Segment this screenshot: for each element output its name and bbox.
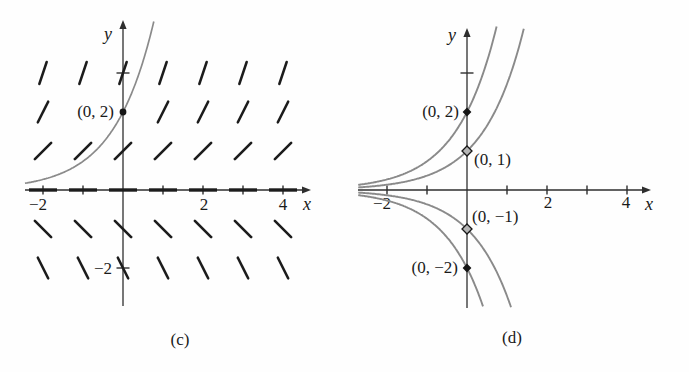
x-tick-label: 4: [279, 195, 288, 214]
slope-mark: [198, 102, 208, 123]
x-axis-arrow: [302, 186, 311, 193]
slope-mark: [199, 62, 206, 84]
slope-mark: [195, 143, 211, 159]
slope-mark: [75, 221, 91, 237]
slope-mark: [275, 221, 291, 237]
slope-mark: [198, 258, 208, 279]
slope-mark: [38, 102, 48, 123]
slope-mark: [159, 62, 166, 84]
slope-mark: [79, 62, 86, 84]
x-axis-letter: x: [644, 194, 653, 214]
point-label: (0, 2): [422, 102, 459, 121]
slope-mark: [158, 258, 168, 279]
slope-mark: [35, 143, 51, 159]
point-marker-filled-diamond: [463, 264, 472, 273]
figure-root: −224−2xy(0, 2)−224xy(0, 2)(0, 1)(0, −1)(…: [0, 0, 689, 372]
x-axis-letter: x: [302, 194, 311, 214]
panel-c-caption: (c): [145, 330, 215, 350]
slope-mark: [275, 143, 291, 159]
slope-mark: [238, 258, 248, 279]
x-tick-label: 2: [544, 193, 553, 212]
point-label: (0, 2): [77, 102, 114, 121]
point-label: (0, 1): [474, 150, 511, 169]
slope-mark: [158, 102, 168, 123]
y-axis-arrow: [463, 28, 470, 37]
x-tick-label: −2: [29, 195, 47, 214]
y-axis-letter: y: [446, 25, 456, 45]
y-axis-arrow: [119, 20, 126, 29]
y-axis-letter: y: [102, 24, 112, 44]
slope-mark: [279, 62, 286, 84]
slope-mark: [39, 62, 46, 84]
panel-c: −224−2xy(0, 2): [25, 20, 311, 306]
point-marker-filled-dot: [120, 109, 127, 116]
point-label: (0, −2): [412, 258, 458, 277]
panel-d-caption: (d): [477, 328, 547, 348]
slope-mark: [238, 102, 248, 123]
x-tick-label: −2: [373, 194, 391, 213]
x-tick-label: 4: [622, 193, 631, 212]
slope-mark: [235, 143, 251, 159]
slope-mark: [235, 221, 251, 237]
slope-mark: [35, 221, 51, 237]
y-tick-label: −2: [94, 259, 112, 278]
slope-mark: [195, 221, 211, 237]
slope-mark: [278, 258, 288, 279]
slope-mark: [155, 221, 171, 237]
slope-mark: [78, 258, 88, 279]
figure-svg: −224−2xy(0, 2)−224xy(0, 2)(0, 1)(0, −1)(…: [0, 0, 689, 372]
point-marker-filled-diamond: [463, 108, 472, 117]
point-label: (0, −1): [472, 207, 518, 226]
x-tick-label: 2: [200, 195, 209, 214]
slope-mark: [155, 143, 171, 159]
x-axis-arrow: [642, 186, 651, 193]
panel-d: −224xy(0, 2)(0, 1)(0, −1)(0, −2): [358, 25, 653, 308]
slope-mark: [239, 62, 246, 84]
slope-mark: [278, 102, 288, 123]
slope-mark: [38, 258, 48, 279]
